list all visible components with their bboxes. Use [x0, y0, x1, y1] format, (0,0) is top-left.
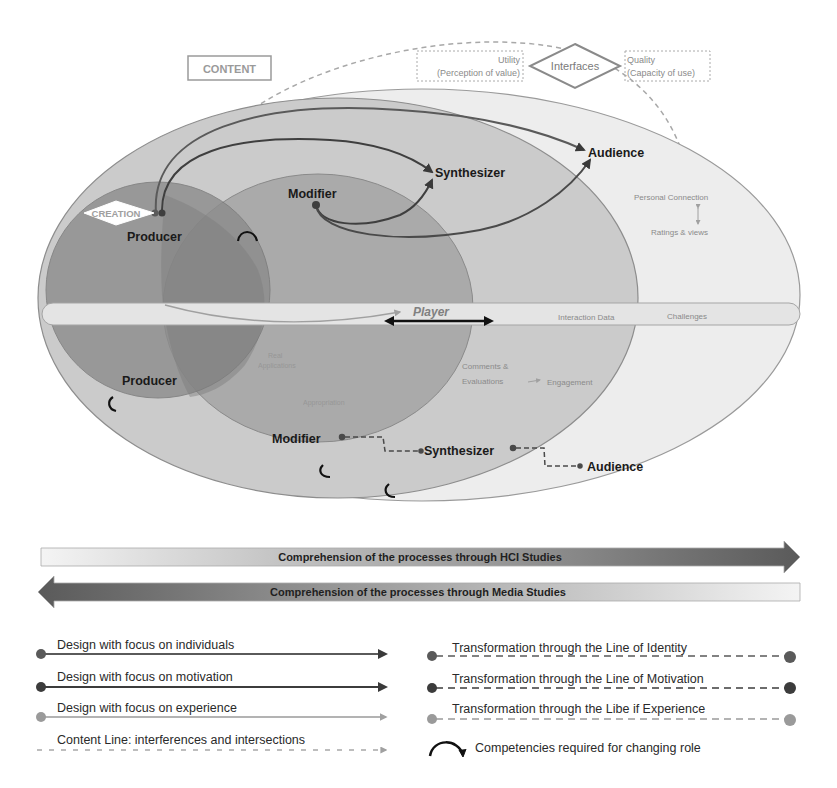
legend-item-motivation: Design with focus on motivation: [36, 670, 386, 692]
comments-label: Comments &: [462, 362, 509, 371]
legend-individuals-label: Design with focus on individuals: [57, 638, 234, 652]
quality-sublabel: (Capacity of use): [627, 68, 695, 78]
competency-arc-icon: [430, 742, 463, 756]
legend-identity-label: Transformation through the Line of Ident…: [452, 641, 688, 655]
lower-modifier-label: Modifier: [272, 432, 321, 446]
interfaces-diamond: Interfaces: [530, 44, 620, 88]
applications-label: Applications: [258, 362, 296, 370]
content-label: CONTENT: [203, 63, 256, 75]
legend-item-identity: Transformation through the Line of Ident…: [427, 641, 796, 663]
evaluations-label: Evaluations: [462, 377, 503, 386]
utility-label: Utility: [498, 55, 520, 65]
legend-item-content-line: Content Line: interferences and intersec…: [37, 733, 386, 750]
content-box: CONTENT: [188, 56, 271, 80]
legend-motivation-label: Design with focus on motivation: [57, 670, 233, 684]
lower-synthesizer-label: Synthesizer: [424, 444, 494, 458]
interaction-data-label: Interaction Data: [558, 313, 615, 322]
creation-label: CREATION: [92, 208, 141, 219]
quality-box: Quality (Capacity of use): [625, 51, 710, 81]
lower-audience-label: Audience: [587, 460, 643, 474]
hci-studies-label: Comprehension of the processes through H…: [278, 551, 562, 563]
engagement-label: Engagement: [547, 378, 593, 387]
quality-label: Quality: [627, 55, 656, 65]
upper-audience-label: Audience: [588, 146, 644, 160]
legend-item-experience-transform: Transformation through the Libe if Exper…: [427, 702, 796, 726]
legend-content-line-label: Content Line: interferences and intersec…: [57, 733, 305, 747]
personal-connection-label: Personal Connection: [634, 193, 708, 202]
legend-left: Design with focus on individuals Design …: [36, 638, 386, 750]
legend-motivation-transform-label: Transformation through the Line of Motiv…: [452, 672, 704, 686]
hci-studies-arrow: Comprehension of the processes through H…: [41, 541, 800, 573]
appropriation-label: Appropriation: [303, 399, 345, 407]
legend-right: Transformation through the Line of Ident…: [427, 641, 796, 757]
challenges-label: Challenges: [667, 312, 707, 321]
legend-item-motivation-transform: Transformation through the Line of Motiv…: [427, 672, 796, 694]
ratings-views-label: Ratings & views: [651, 228, 708, 237]
upper-synthesizer-label: Synthesizer: [435, 166, 505, 180]
legend-competencies-label: Competencies required for changing role: [475, 741, 701, 755]
legend-experience-label: Design with focus on experience: [57, 701, 237, 715]
media-roles-diagram: CONTENT Utility (Perception of value) In…: [0, 0, 837, 788]
player-label: Player: [413, 305, 450, 319]
legend-item-experience: Design with focus on experience: [36, 701, 386, 722]
upper-producer-label: Producer: [127, 230, 182, 244]
media-studies-arrow: Comprehension of the processes through M…: [38, 576, 800, 608]
legend-item-individuals: Design with focus on individuals: [36, 638, 386, 659]
media-studies-label: Comprehension of the processes through M…: [270, 586, 566, 598]
legend-experience-transform-label: Transformation through the Libe if Exper…: [452, 702, 705, 716]
legend-item-competencies: Competencies required for changing role: [430, 741, 701, 757]
upper-modifier-label: Modifier: [288, 187, 337, 201]
utility-box: Utility (Perception of value): [417, 51, 523, 81]
real-label: Real: [268, 352, 283, 359]
interfaces-label: Interfaces: [551, 60, 600, 72]
lower-producer-label: Producer: [122, 374, 177, 388]
utility-sublabel: (Perception of value): [437, 68, 520, 78]
